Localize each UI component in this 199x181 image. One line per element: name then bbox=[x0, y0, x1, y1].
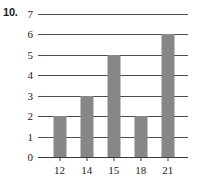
bar bbox=[80, 96, 93, 157]
y-axis-tick-label: 3 bbox=[28, 90, 34, 102]
y-axis-tick-label: 2 bbox=[28, 110, 34, 122]
chart-figure: 10. 01234567 1214151821 bbox=[0, 0, 199, 181]
exercise-number-label: 10. bbox=[3, 6, 18, 18]
bar bbox=[53, 116, 66, 157]
y-axis-tick-label: 1 bbox=[28, 131, 34, 143]
bar bbox=[134, 116, 147, 157]
x-axis-tick bbox=[113, 157, 114, 161]
y-axis-tick-label: 7 bbox=[28, 8, 34, 20]
x-axis-tick bbox=[59, 157, 60, 161]
x-axis-tick bbox=[140, 157, 141, 161]
y-axis-tick-label: 5 bbox=[28, 49, 34, 61]
x-axis-tick-label: 12 bbox=[54, 164, 65, 176]
x-axis-tick-label: 21 bbox=[162, 164, 173, 176]
x-axis-tick-label: 14 bbox=[81, 164, 92, 176]
y-axis-tick-label: 4 bbox=[28, 69, 34, 81]
x-axis-tick-label: 15 bbox=[108, 164, 119, 176]
plot-area: 01234567 1214151821 bbox=[38, 14, 188, 157]
x-axis-tick-label: 18 bbox=[135, 164, 146, 176]
x-axis-tick bbox=[86, 157, 87, 161]
gridline bbox=[38, 14, 188, 15]
y-axis-tick-label: 0 bbox=[28, 151, 34, 163]
bar bbox=[161, 34, 174, 157]
x-axis-tick bbox=[167, 157, 168, 161]
bar bbox=[107, 55, 120, 157]
y-axis-tick-label: 6 bbox=[28, 28, 34, 40]
